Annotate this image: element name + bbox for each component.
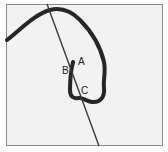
label-a: A xyxy=(78,57,85,67)
yarn-strand xyxy=(7,9,105,102)
knitting-illustration xyxy=(0,0,168,152)
label-c: C xyxy=(81,86,88,96)
label-b: B xyxy=(62,66,69,76)
knitting-needle xyxy=(47,4,99,146)
